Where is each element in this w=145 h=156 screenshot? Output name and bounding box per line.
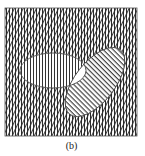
venn-figure: (b) [0, 0, 145, 156]
venn-diagram [0, 0, 145, 156]
set-b-region [5, 8, 137, 136]
figure-caption: (b) [0, 140, 143, 152]
